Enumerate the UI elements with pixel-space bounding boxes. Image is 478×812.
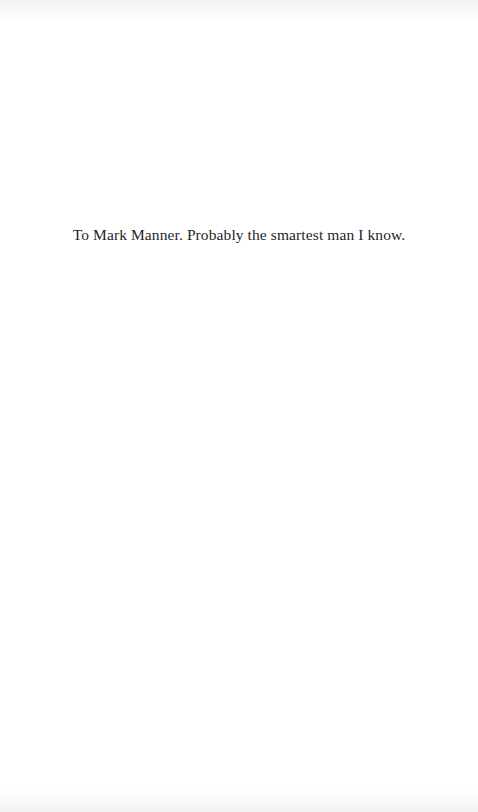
dedication-text: To Mark Manner. Probably the smartest ma… <box>0 224 478 246</box>
book-page: To Mark Manner. Probably the smartest ma… <box>0 0 478 812</box>
scan-edge-top <box>0 0 478 24</box>
scan-edge-bottom <box>0 790 478 812</box>
